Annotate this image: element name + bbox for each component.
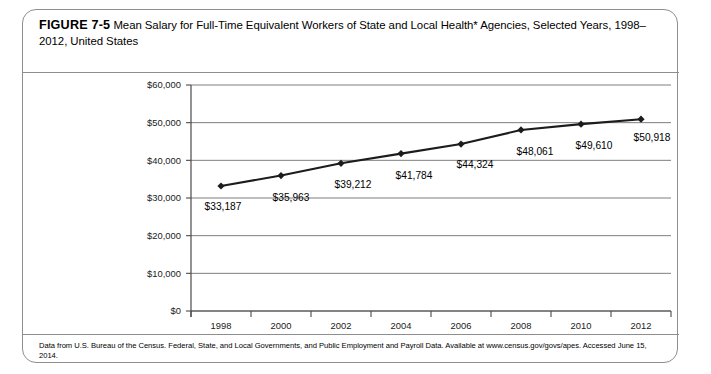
figure-frame: FIGURE 7-5 Mean Salary for Full-Time Equ… [22,9,678,363]
y-axis-labels-group: $0$10,000$20,000$30,000$40,000$50,000$60… [147,79,181,316]
data-point-label: $35,963 [273,192,310,203]
y-axis-tick-label: $20,000 [147,230,181,241]
y-axis-tick-label: $40,000 [147,155,181,166]
x-axis-tick-label: 1998 [211,320,232,331]
data-point-marker [217,182,224,189]
data-point-marker [577,121,584,128]
x-axis-tick-label: 2000 [271,320,292,331]
data-point-marker [457,140,464,147]
figure-caption-text: Mean Salary for Full-Time Equivalent Wor… [39,19,646,47]
data-point-marker [277,172,284,179]
gridlines-group [191,85,671,311]
line-chart: $0$10,000$20,000$30,000$40,000$50,000$60… [23,73,679,334]
data-point-label: $50,918 [634,132,671,143]
y-tick-group [186,85,191,311]
y-axis-tick-label: $30,000 [147,192,181,203]
x-axis-tick-label: 2010 [571,320,592,331]
data-label-group: $33,187$35,963$39,212$41,784$44,324$48,0… [205,132,671,212]
x-axis-labels-group: 19982000200220042006200820102012 [211,320,652,331]
x-axis-tick-label: 2006 [451,320,472,331]
data-point-label: $44,324 [457,159,494,170]
data-point-label: $48,061 [517,146,554,157]
data-point-marker [637,116,644,123]
figure-number: FIGURE 7-5 [39,18,110,32]
x-axis-tick-label: 2002 [331,320,352,331]
x-axis-tick-label: 2004 [391,320,412,331]
x-tick-group [191,311,671,317]
y-axis-tick-label: $0 [171,305,181,316]
y-axis-tick-label: $50,000 [147,117,181,128]
figure-caption: FIGURE 7-5 Mean Salary for Full-Time Equ… [39,18,663,49]
data-point-marker [517,126,524,133]
data-point-label: $39,212 [335,179,372,190]
data-point-label: $33,187 [205,201,242,212]
x-axis-tick-label: 2012 [631,320,652,331]
x-axis-tick-label: 2008 [511,320,532,331]
y-axis-tick-label: $10,000 [147,268,181,279]
figure-source-note: Data from U.S. Bureau of the Census. Fed… [39,341,665,361]
chart-area: $0$10,000$20,000$30,000$40,000$50,000$60… [23,73,679,334]
data-point-label: $41,784 [396,170,433,181]
footnote-divider [23,334,679,335]
data-point-label: $49,610 [576,140,613,151]
y-axis-tick-label: $60,000 [147,79,181,90]
data-point-marker [397,150,404,157]
